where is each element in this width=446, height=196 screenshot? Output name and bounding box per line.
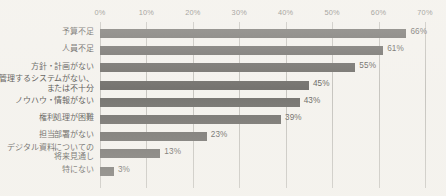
bar <box>100 115 281 124</box>
category-label: 人員不足 <box>0 44 94 54</box>
bar-value-label: 45% <box>313 79 330 88</box>
bar-value-label: 55% <box>359 61 376 70</box>
bar <box>100 63 355 72</box>
bar-row: 61% <box>100 43 425 60</box>
x-tick-label: 60% <box>371 8 386 17</box>
bar-value-label: 23% <box>211 130 228 139</box>
category-label: 方針・計画がない <box>0 62 94 72</box>
x-tick-label: 50% <box>324 8 339 17</box>
x-tick-label: 0% <box>94 8 105 17</box>
x-tick-label: 10% <box>139 8 154 17</box>
plot-area: 0%10%20%30%40%50%60%70%66%61%55%45%43%39… <box>100 22 425 188</box>
category-label: 特にない <box>0 165 94 175</box>
x-tick-label: 40% <box>278 8 293 17</box>
bar-value-label: 61% <box>387 44 404 53</box>
category-label: 管理するシステムがない、 または不十分 <box>0 74 94 93</box>
bar <box>100 132 207 141</box>
bar-row: 13% <box>100 146 425 163</box>
x-tick-label: 20% <box>185 8 200 17</box>
bar-value-label: 43% <box>304 96 321 105</box>
bar <box>100 29 406 38</box>
category-label: ノウハウ・情報がない <box>0 96 94 106</box>
bar-value-label: 13% <box>164 147 181 156</box>
x-tick-label: 70% <box>417 8 432 17</box>
bar <box>100 167 114 176</box>
bar-row: 55% <box>100 60 425 77</box>
category-label: 予算不足 <box>0 27 94 37</box>
category-label: デジタル資料についての 将来見通し <box>0 143 94 162</box>
bar-row: 39% <box>100 112 425 129</box>
bar-value-label: 3% <box>118 165 130 174</box>
x-tick-label: 30% <box>232 8 247 17</box>
bar-row: 45% <box>100 78 425 95</box>
bar-row: 23% <box>100 129 425 146</box>
bar-value-label: 66% <box>410 27 427 36</box>
bar <box>100 81 309 90</box>
bar-row: 43% <box>100 95 425 112</box>
category-label: 担当部署がない <box>0 130 94 140</box>
bar-value-label: 39% <box>285 113 302 122</box>
x-gridline <box>425 22 426 188</box>
bar <box>100 46 383 55</box>
bar <box>100 149 160 158</box>
category-label: 権利処理が困難 <box>0 113 94 123</box>
bar-row: 3% <box>100 164 425 181</box>
bar-chart: 0%10%20%30%40%50%60%70%66%61%55%45%43%39… <box>0 0 446 196</box>
bar <box>100 98 300 107</box>
bar-row: 66% <box>100 26 425 43</box>
